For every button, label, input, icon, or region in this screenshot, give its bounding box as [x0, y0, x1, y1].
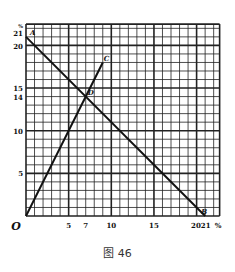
x-tick-label: 5 [66, 221, 71, 230]
y-tick-label: 5 [18, 169, 23, 178]
point-label-a: A [29, 28, 36, 37]
y-tick-label: 14 [13, 93, 23, 102]
figure-caption: 图 46 [0, 244, 235, 260]
point-label-d: D [87, 88, 95, 97]
y-tick-label: 20 [13, 42, 23, 51]
x-tick-label: 2021 [191, 221, 211, 230]
series-line-ab [26, 37, 205, 216]
x-tick-label: 7 [83, 221, 88, 230]
y-tick-label: 10 [13, 127, 23, 136]
grid-lines [26, 24, 220, 216]
y-tick-label: 15 [13, 84, 23, 93]
x-tick-label: 10 [106, 221, 116, 230]
chart-plot: 5710152021%51014152021%OABCD [0, 0, 235, 272]
origin-label: O [11, 220, 21, 233]
y-tick-label: 21 [13, 29, 23, 38]
y-axis-unit: % [18, 23, 23, 29]
point-label-b: B [200, 207, 207, 216]
data-lines [26, 37, 205, 216]
x-axis-unit: % [215, 221, 222, 230]
x-tick-label: 15 [149, 221, 159, 230]
point-label-c: C [104, 54, 110, 63]
